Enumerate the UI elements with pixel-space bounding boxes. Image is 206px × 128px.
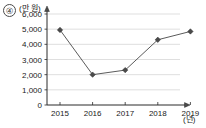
x-axis-tick-label: 2019 <box>182 109 200 118</box>
y-axis-tick-label: 4,000 <box>22 40 43 49</box>
axes <box>45 6 190 107</box>
y-axis-tick-label: 6,000 <box>22 10 43 19</box>
x-axis-tick-labels: 20152016201720182019 <box>51 109 200 118</box>
line-chart-plot: 01,0002,0003,0004,0005,0006,000 20152016… <box>0 0 206 128</box>
chart-figure: ④ (만 원) (년) 01,0002,0003,0004,0005,0006,… <box>0 0 206 128</box>
y-axis-tick-label: 1,000 <box>22 86 43 95</box>
x-axis-tick-label: 2015 <box>51 109 69 118</box>
data-point-marker <box>188 29 193 34</box>
x-axis-tick-label: 2017 <box>116 109 134 118</box>
y-axis-tick-label: 5,000 <box>22 25 43 34</box>
gridlines <box>47 14 180 90</box>
x-axis-tick-label: 2018 <box>149 109 167 118</box>
y-axis-tick-label: 3,000 <box>22 56 43 65</box>
x-axis-tick-label: 2016 <box>84 109 102 118</box>
y-axis-tick-label: 0 <box>38 101 43 110</box>
y-axis-tick-label: 2,000 <box>22 71 43 80</box>
y-axis-arrow <box>45 6 50 12</box>
y-axis-tick-labels: 01,0002,0003,0004,0005,0006,000 <box>22 10 43 110</box>
data-markers <box>57 27 193 77</box>
x-axis-arrow <box>185 103 191 108</box>
